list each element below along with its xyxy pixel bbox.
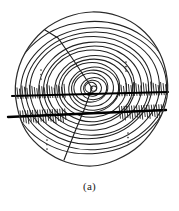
hatch-tick <box>27 88 28 99</box>
figure-container: (a) <box>0 0 179 211</box>
hatch-tick <box>169 104 170 116</box>
hatch-tick <box>42 86 43 98</box>
hatch-tick <box>163 83 164 95</box>
ellipsis-lower-right-dot <box>127 132 129 134</box>
hatch-tick <box>62 87 63 98</box>
figure-caption: (a) <box>0 180 179 192</box>
hatch-tick <box>136 83 137 96</box>
ellipsis-lower-left-dot <box>46 148 48 150</box>
ellipsis-upper-right-dot <box>125 61 127 63</box>
ellipsis-upper-right-dot <box>125 70 127 72</box>
wood-cross-section-illustration <box>0 0 179 180</box>
hatch-tick <box>52 87 53 98</box>
growth-rings-group <box>5 14 176 162</box>
hatch-tick <box>138 84 139 95</box>
hatch-tick <box>17 87 18 98</box>
hatch-tick <box>34 87 35 98</box>
hatch-tick <box>156 84 157 95</box>
ellipsis-lower-right-dot <box>127 137 129 139</box>
ellipsis-left-dot <box>40 78 42 80</box>
hatch-tick <box>131 85 132 96</box>
ellipsis-upper-right-dot <box>125 66 127 68</box>
hatch-tick <box>32 86 33 99</box>
ellipsis-left-dot <box>40 69 42 71</box>
ellipsis-lower-left-dot <box>46 144 48 146</box>
hatch-tick <box>123 86 124 96</box>
hatch-tick <box>146 84 147 96</box>
hatch-tick <box>49 85 50 98</box>
hatch-tick <box>153 83 154 96</box>
ellipsis-lower-left-dot <box>46 139 48 141</box>
hatch-tick <box>37 88 38 98</box>
ellipsis-lower-right-dot <box>127 141 129 143</box>
hatch-tick <box>128 84 129 96</box>
hatch-tick <box>121 85 122 96</box>
ellipsis-left-dot <box>40 74 42 76</box>
growth-ring-7 <box>67 65 121 113</box>
